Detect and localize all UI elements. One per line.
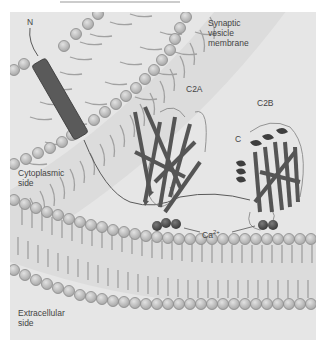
calcium-charge: 2+ [213, 229, 220, 235]
c2b-domain [236, 123, 303, 230]
c2b-label: C2B [257, 98, 274, 108]
cytoplasmic-side-label: Cytoplasmic side [18, 168, 64, 188]
calcium-symbol: Ca [202, 230, 213, 240]
n-terminus-label: N [27, 17, 33, 27]
c-terminus-label: C [235, 134, 241, 144]
extracellular-side-label: Extracellular side [18, 308, 65, 328]
transmembrane-helix [32, 58, 89, 140]
diagram-panel: N Synaptic vesicle membrane C2A C2B C Cy… [10, 12, 316, 340]
c2a-label: C2A [186, 84, 203, 94]
calcium-label: Ca2+ [202, 227, 220, 240]
cropped-caption-line [60, 0, 180, 4]
vesicle-membrane-label: Synaptic vesicle membrane [208, 18, 249, 48]
